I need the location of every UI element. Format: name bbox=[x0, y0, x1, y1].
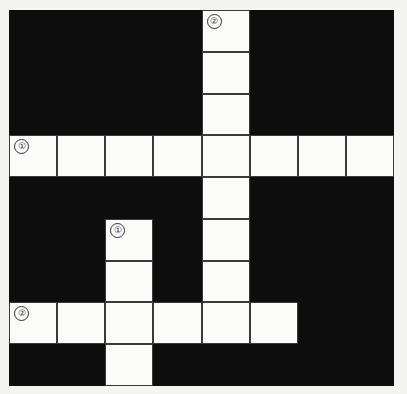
crossword-cell[interactable] bbox=[153, 302, 201, 344]
blocked-cell bbox=[57, 94, 105, 136]
letter-input[interactable] bbox=[58, 136, 104, 176]
blocked-cell bbox=[9, 52, 57, 94]
crossword-cell[interactable] bbox=[202, 52, 250, 94]
crossword-grid: ②①①② bbox=[9, 10, 394, 386]
letter-input[interactable] bbox=[251, 303, 297, 343]
blocked-cell bbox=[57, 177, 105, 219]
crossword-cell[interactable] bbox=[298, 135, 346, 177]
blocked-cell bbox=[298, 94, 346, 136]
blocked-cell bbox=[57, 261, 105, 303]
blocked-cell bbox=[250, 261, 298, 303]
letter-input[interactable] bbox=[347, 136, 393, 176]
letter-input[interactable] bbox=[203, 11, 249, 51]
blocked-cell bbox=[298, 344, 346, 386]
crossword-cell[interactable] bbox=[202, 177, 250, 219]
blocked-cell bbox=[250, 94, 298, 136]
blocked-cell bbox=[57, 219, 105, 261]
crossword-cell[interactable] bbox=[57, 302, 105, 344]
letter-input[interactable] bbox=[106, 262, 152, 302]
crossword-cell[interactable] bbox=[105, 302, 153, 344]
blocked-cell bbox=[298, 52, 346, 94]
crossword-cell[interactable] bbox=[202, 261, 250, 303]
blocked-cell bbox=[9, 219, 57, 261]
blocked-cell bbox=[346, 177, 394, 219]
blocked-cell bbox=[250, 177, 298, 219]
blocked-cell bbox=[298, 261, 346, 303]
blocked-cell bbox=[298, 177, 346, 219]
blocked-cell bbox=[298, 10, 346, 52]
letter-input[interactable] bbox=[106, 303, 152, 343]
blocked-cell bbox=[153, 10, 201, 52]
blocked-cell bbox=[153, 261, 201, 303]
crossword-cell[interactable] bbox=[153, 135, 201, 177]
letter-input[interactable] bbox=[299, 136, 345, 176]
blocked-cell bbox=[105, 94, 153, 136]
blocked-cell bbox=[9, 10, 57, 52]
letter-input[interactable] bbox=[106, 220, 152, 260]
blocked-cell bbox=[9, 94, 57, 136]
blocked-cell bbox=[346, 219, 394, 261]
blocked-cell bbox=[250, 219, 298, 261]
blocked-cell bbox=[250, 52, 298, 94]
blocked-cell bbox=[105, 177, 153, 219]
blocked-cell bbox=[250, 10, 298, 52]
crossword-cell[interactable] bbox=[202, 94, 250, 136]
letter-input[interactable] bbox=[251, 136, 297, 176]
blocked-cell bbox=[105, 52, 153, 94]
letter-input[interactable] bbox=[203, 303, 249, 343]
crossword-cell[interactable] bbox=[57, 135, 105, 177]
letter-input[interactable] bbox=[203, 220, 249, 260]
blocked-cell bbox=[9, 177, 57, 219]
crossword-cell[interactable]: ① bbox=[105, 219, 153, 261]
crossword-cell[interactable] bbox=[250, 302, 298, 344]
blocked-cell bbox=[105, 10, 153, 52]
blocked-cell bbox=[153, 52, 201, 94]
blocked-cell bbox=[346, 261, 394, 303]
blocked-cell bbox=[298, 219, 346, 261]
crossword-cell[interactable]: ② bbox=[9, 302, 57, 344]
blocked-cell bbox=[57, 10, 105, 52]
letter-input[interactable] bbox=[154, 136, 200, 176]
blocked-cell bbox=[57, 344, 105, 386]
crossword-cell[interactable]: ① bbox=[9, 135, 57, 177]
letter-input[interactable] bbox=[106, 345, 152, 385]
blocked-cell bbox=[346, 52, 394, 94]
blocked-cell bbox=[346, 10, 394, 52]
blocked-cell bbox=[153, 94, 201, 136]
letter-input[interactable] bbox=[106, 136, 152, 176]
blocked-cell bbox=[153, 344, 201, 386]
blocked-cell bbox=[57, 52, 105, 94]
blocked-cell bbox=[153, 219, 201, 261]
letter-input[interactable] bbox=[203, 95, 249, 135]
letter-input[interactable] bbox=[58, 303, 104, 343]
blocked-cell bbox=[298, 302, 346, 344]
letter-input[interactable] bbox=[154, 303, 200, 343]
blocked-cell bbox=[153, 177, 201, 219]
crossword-cell[interactable] bbox=[250, 135, 298, 177]
blocked-cell bbox=[346, 344, 394, 386]
crossword-cell[interactable] bbox=[202, 302, 250, 344]
crossword-cell[interactable] bbox=[202, 135, 250, 177]
crossword-cell[interactable] bbox=[105, 261, 153, 303]
letter-input[interactable] bbox=[203, 262, 249, 302]
crossword-cell[interactable] bbox=[105, 135, 153, 177]
crossword-cell[interactable] bbox=[105, 344, 153, 386]
blocked-cell bbox=[346, 302, 394, 344]
letter-input[interactable] bbox=[203, 136, 249, 176]
crossword-cell[interactable] bbox=[202, 219, 250, 261]
letter-input[interactable] bbox=[203, 53, 249, 93]
letter-input[interactable] bbox=[10, 136, 56, 176]
crossword-cell[interactable] bbox=[346, 135, 394, 177]
blocked-cell bbox=[9, 344, 57, 386]
blocked-cell bbox=[250, 344, 298, 386]
letter-input[interactable] bbox=[203, 178, 249, 218]
crossword-cell[interactable]: ② bbox=[202, 10, 250, 52]
letter-input[interactable] bbox=[10, 303, 56, 343]
blocked-cell bbox=[202, 344, 250, 386]
blocked-cell bbox=[346, 94, 394, 136]
blocked-cell bbox=[9, 261, 57, 303]
